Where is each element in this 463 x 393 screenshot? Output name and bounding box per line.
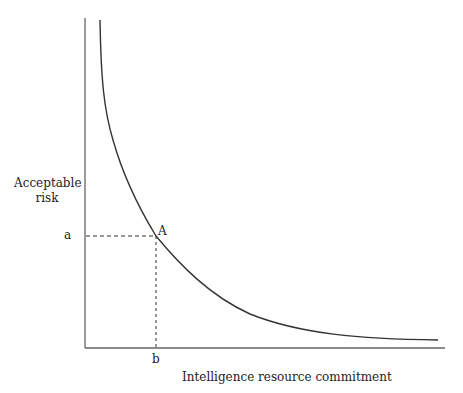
point-label-A: A: [158, 224, 167, 239]
y-axis-label-line1: Acceptable: [14, 176, 80, 191]
x-axis-label: Intelligence resource commitment: [182, 370, 392, 385]
tick-label-a: a: [64, 228, 71, 243]
tick-label-b: b: [152, 352, 160, 367]
y-axis-label-line2: risk: [14, 191, 80, 206]
risk-curve: [100, 20, 438, 340]
y-axis-label: Acceptable risk: [14, 176, 80, 206]
